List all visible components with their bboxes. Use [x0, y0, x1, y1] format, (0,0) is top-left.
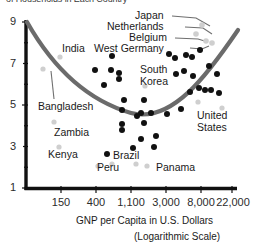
x-tick-150: 150: [43, 196, 79, 208]
annotation-zambia: Zambia: [54, 127, 89, 139]
annotation-kenya: Kenya: [48, 149, 78, 161]
leader-lines: [172, 16, 212, 49]
annotation-south-korea-line1: South: [140, 64, 167, 76]
annotation-brazil: Brazil: [113, 150, 139, 162]
annotation-india: India: [62, 43, 85, 55]
annotation-west-germany: West Germany: [94, 43, 164, 55]
annotation-peru: Peru: [97, 162, 119, 174]
annotation-south-korea-line2: Korea: [140, 76, 168, 88]
y-tick-1: 1: [2, 181, 16, 193]
chart-figure: of Households in Each Country: [0, 0, 262, 251]
x-tick-400: 400: [78, 196, 114, 208]
y-tick-9: 9: [2, 15, 16, 27]
annotation-panama: Panama: [156, 162, 195, 174]
y-tick-3: 3: [2, 140, 16, 152]
leader-line-bangladesh: [51, 71, 54, 99]
annotation-bangladesh: Bangladesh: [38, 101, 93, 113]
x-axis-title-line1: GNP per Capita in U.S. Dollars: [76, 215, 213, 226]
annotation-united-states-line2: States: [197, 122, 227, 134]
annotation-united-states-line1: United: [197, 110, 227, 122]
x-tick-22000: 22,000: [209, 196, 257, 208]
x-axis-title-line2: (Logarithmic Scale): [134, 231, 220, 242]
y-tick-7: 7: [2, 57, 16, 69]
y-tick-5: 5: [2, 98, 16, 110]
